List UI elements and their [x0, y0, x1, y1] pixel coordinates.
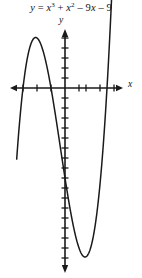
- equation-caption: y = x3 + x2 – 9x – 9: [0, 2, 142, 13]
- x-axis-left-arrowhead: [10, 85, 17, 91]
- equation-minus-nine-coefficient: – 9: [77, 2, 90, 13]
- y-axis-top-arrowhead: [62, 29, 68, 37]
- equation-term2-exponent: 2: [71, 1, 75, 9]
- equation-constant-term: – 9: [98, 2, 111, 13]
- equation-term3-variable: x: [91, 2, 96, 13]
- equation-term1-exponent: 3: [51, 1, 55, 9]
- coordinate-plane-svg: [0, 0, 142, 278]
- x-axis-label: x: [128, 79, 132, 89]
- graph-figure: y = x3 + x2 – 9x – 9 y x: [0, 0, 142, 278]
- equation-equals: =: [38, 2, 44, 13]
- y-axis-label: y: [59, 15, 63, 25]
- x-axis-group: [10, 85, 123, 92]
- y-axis-group: [62, 29, 69, 273]
- y-axis-bottom-arrowhead: [62, 265, 68, 273]
- equation-plus-operator: +: [58, 2, 64, 13]
- x-axis-right-arrowhead: [116, 85, 123, 91]
- equation-lhs: y: [30, 2, 35, 13]
